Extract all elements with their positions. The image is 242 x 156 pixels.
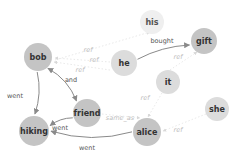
node-gift[interactable]: gift <box>191 28 217 54</box>
node-hiking[interactable]: hiking <box>19 116 49 146</box>
edge-alice-hiking <box>51 131 132 137</box>
edge-label-bought: bought <box>150 37 173 45</box>
edge-label-went: went <box>52 124 68 132</box>
edge-label-went: went <box>7 92 23 100</box>
edge-label-ref: ref <box>90 56 101 64</box>
edge-it-alice <box>148 93 162 117</box>
node-label-friend: friend <box>73 109 100 118</box>
node-label-it: it <box>165 78 172 87</box>
edge-his-bob <box>55 32 150 60</box>
node-label-bob: bob <box>30 53 47 62</box>
edge-label-same_as: same_as <box>106 114 135 122</box>
node-label-he: he <box>118 59 130 68</box>
node-label-his: his <box>145 18 158 27</box>
node-label-gift: gift <box>196 37 212 46</box>
node-label-hiking: hiking <box>20 127 48 136</box>
edge-label-ref: ref <box>141 94 152 102</box>
edge-label-ref: ref <box>84 46 95 54</box>
edge-bob-friend <box>48 68 77 101</box>
node-alice[interactable]: alice <box>133 118 161 146</box>
node-label-alice: alice <box>136 128 158 137</box>
node-his[interactable]: his <box>140 10 164 34</box>
node-bob[interactable]: bob <box>24 43 52 71</box>
node-label-she: she <box>209 105 225 114</box>
edge-he-bob <box>55 58 110 62</box>
node-he[interactable]: he <box>111 50 137 76</box>
edge-label-ref: ref <box>174 53 185 61</box>
node-friend[interactable]: friend <box>73 99 101 127</box>
node-she[interactable]: she <box>205 97 229 121</box>
edge-bob-hiking <box>35 72 39 114</box>
edge-label-ref: ref <box>174 126 185 134</box>
edge-she-alice <box>163 114 206 131</box>
edge-label-and: and <box>65 76 77 84</box>
node-it[interactable]: it <box>156 70 180 94</box>
edge-label-ref: ref <box>76 66 87 74</box>
coreference-graph: wentandwentwentboughtrefrefrefrefrefsame… <box>0 0 242 156</box>
edge-label-went: went <box>79 144 95 152</box>
